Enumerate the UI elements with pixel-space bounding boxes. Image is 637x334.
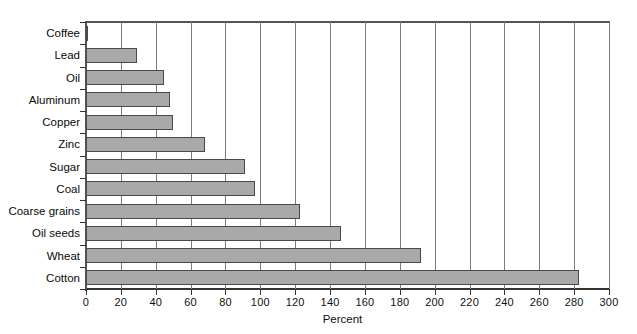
x-tick-label-300: 300 [600, 296, 619, 308]
bar-coal [86, 181, 255, 196]
x-tick-label-260: 260 [530, 296, 549, 308]
bar-oil [86, 70, 164, 85]
bar-coffee [86, 26, 88, 41]
x-tick-160 [365, 290, 366, 295]
y-axis-label-sugar: Sugar [0, 161, 80, 173]
bar-lead [86, 48, 137, 63]
x-tick-label-180: 180 [390, 296, 409, 308]
x-tick-label-0: 0 [83, 296, 89, 308]
x-tick-0 [86, 290, 87, 295]
x-tick-label-40: 40 [149, 296, 162, 308]
x-tick-label-120: 120 [286, 296, 305, 308]
bar-copper [86, 115, 173, 130]
x-tick-180 [400, 290, 401, 295]
y-axis-label-oil-seeds: Oil seeds [0, 227, 80, 239]
x-tick-label-140: 140 [321, 296, 340, 308]
bar-wheat [86, 248, 421, 263]
gridline-200 [435, 22, 436, 289]
x-tick-label-80: 80 [219, 296, 232, 308]
chart-top-artifact [0, 0, 637, 14]
bar-cotton [86, 270, 579, 285]
y-tick-8 [80, 200, 86, 201]
y-tick-6 [80, 156, 86, 157]
y-axis-label-oil: Oil [0, 72, 80, 84]
gridline-220 [470, 22, 471, 289]
y-axis-label-lead: Lead [0, 49, 80, 61]
plot-top-border [86, 21, 610, 23]
x-tick-260 [539, 290, 540, 295]
x-tick-40 [156, 290, 157, 295]
y-tick-1 [80, 44, 86, 45]
y-axis-label-zinc: Zinc [0, 138, 80, 150]
gridline-300 [609, 22, 610, 289]
bar-sugar [86, 159, 245, 174]
x-tick-label-20: 20 [115, 296, 128, 308]
y-tick-4 [80, 111, 86, 112]
x-tick-200 [435, 290, 436, 295]
x-tick-80 [225, 290, 226, 295]
y-axis-label-wheat: Wheat [0, 250, 80, 262]
y-axis-label-aluminum: Aluminum [0, 94, 80, 106]
y-tick-12 [80, 289, 86, 290]
bar-zinc [86, 137, 205, 152]
x-tick-60 [191, 290, 192, 295]
x-tick-label-200: 200 [425, 296, 444, 308]
y-axis-label-cotton: Cotton [0, 272, 80, 284]
x-tick-300 [609, 290, 610, 295]
x-tick-140 [330, 290, 331, 295]
y-tick-3 [80, 89, 86, 90]
x-tick-label-220: 220 [460, 296, 479, 308]
y-tick-2 [80, 67, 86, 68]
x-axis-line [86, 288, 610, 290]
y-tick-0 [80, 22, 86, 23]
x-tick-240 [504, 290, 505, 295]
y-tick-11 [80, 267, 86, 268]
x-axis-title-text: Percent [323, 313, 363, 325]
gridline-280 [574, 22, 575, 289]
bar-oil-seeds [86, 226, 341, 241]
x-tick-label-280: 280 [565, 296, 584, 308]
x-axis-title: Percent [0, 313, 637, 325]
y-tick-9 [80, 222, 86, 223]
gridline-260 [539, 22, 540, 289]
y-tick-7 [80, 178, 86, 179]
y-axis-label-copper: Copper [0, 116, 80, 128]
horizontal-bar-chart: 0204060801001201401601802002202402602803… [0, 0, 637, 334]
x-tick-220 [470, 290, 471, 295]
x-tick-label-60: 60 [184, 296, 197, 308]
x-tick-20 [121, 290, 122, 295]
y-axis-label-coffee: Coffee [0, 27, 80, 39]
x-tick-label-100: 100 [251, 296, 270, 308]
y-tick-10 [80, 245, 86, 246]
x-tick-280 [574, 290, 575, 295]
y-axis-label-coarse-grains: Coarse grains [0, 205, 80, 217]
bar-coarse-grains [86, 204, 300, 219]
gridline-240 [504, 22, 505, 289]
y-axis-label-coal: Coal [0, 183, 80, 195]
y-tick-5 [80, 133, 86, 134]
x-tick-100 [260, 290, 261, 295]
bar-aluminum [86, 92, 170, 107]
x-tick-120 [295, 290, 296, 295]
x-tick-label-240: 240 [495, 296, 514, 308]
x-tick-label-160: 160 [355, 296, 374, 308]
